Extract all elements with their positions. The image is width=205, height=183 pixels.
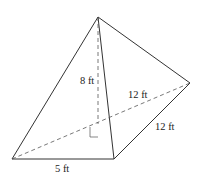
edge-front-right [114,83,190,159]
edge-apex-right [98,17,190,83]
edge-apex-front [98,17,114,159]
edge-apex-left [12,17,98,159]
right-edge-label: 12 ft [155,122,175,133]
bottom-edge-label: 5 ft [55,164,69,175]
pyramid-diagram [0,0,205,183]
height-label: 8 ft [80,76,94,87]
right-angle-marker [90,127,98,137]
diagonal-label: 12 ft [128,90,148,101]
